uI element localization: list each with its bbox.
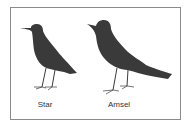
amsel-label: Amsel: [94, 100, 144, 109]
amsel-bird-icon: [87, 20, 172, 94]
star-bird-icon: [20, 24, 77, 90]
star-label: Star: [20, 100, 70, 109]
